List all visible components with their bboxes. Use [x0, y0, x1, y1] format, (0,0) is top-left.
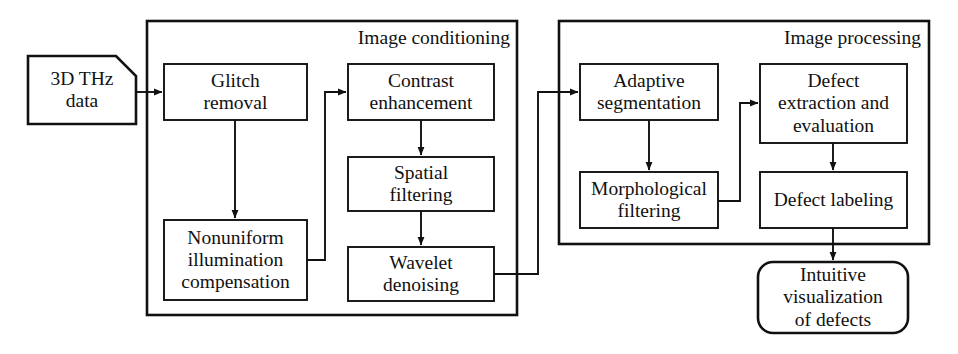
- node-shape-wavelet-denoising: [348, 247, 494, 301]
- connector-wavelet-to-adaptive: [494, 92, 578, 274]
- group-title-text-image-conditioning: Image conditioning: [358, 27, 510, 49]
- group-title-text-image-processing: Image processing: [784, 27, 921, 49]
- group-title-image-conditioning: Image conditioning: [330, 27, 510, 53]
- connector-nonuniform-to-contrast: [307, 92, 346, 260]
- node-shape-intuitive-visualization-of-defects: [758, 262, 908, 333]
- node-shape-nonuniform-illumination-compensation: [164, 220, 307, 300]
- connector-morphological-to-defect-extraction: [718, 103, 758, 201]
- node-shape-spatial-filtering: [348, 157, 494, 211]
- group-title-image-processing: Image processing: [745, 27, 921, 53]
- flowchart-vector-layer: [0, 0, 958, 354]
- node-shape-morphological-filtering: [580, 172, 718, 228]
- node-shape-contrast-enhancement: [348, 64, 494, 120]
- node-shapes: [28, 56, 908, 333]
- node-shape-defect-labeling: [760, 172, 907, 228]
- node-shape-thz-data: [28, 56, 136, 124]
- flowchart-canvas: Image conditioningImage processing3D THz…: [0, 0, 958, 354]
- node-shape-adaptive-segmentation: [580, 64, 718, 120]
- node-shape-defect-extraction-and-evaluation: [760, 64, 907, 143]
- node-shape-glitch-removal: [164, 64, 307, 120]
